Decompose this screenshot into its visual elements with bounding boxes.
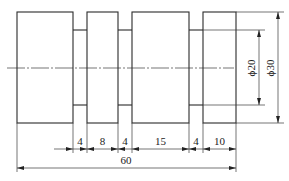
phi20-label: ϕ20 bbox=[245, 59, 257, 76]
arrow-icon bbox=[111, 147, 118, 151]
shaft-section-4 bbox=[203, 12, 236, 123]
arrow-icon bbox=[189, 147, 196, 151]
arrow-icon bbox=[132, 147, 139, 151]
dim-label-4: 15 bbox=[155, 135, 167, 147]
arrow-icon bbox=[17, 166, 24, 170]
arrow-icon bbox=[229, 166, 236, 170]
phi30-label: ϕ30 bbox=[264, 59, 276, 76]
arrow-icon bbox=[80, 147, 87, 151]
arrow-icon bbox=[118, 147, 125, 151]
dim-label-1: 4 bbox=[77, 135, 83, 147]
arrow-icon bbox=[276, 12, 280, 19]
arrow-icon bbox=[257, 98, 261, 105]
arrow-icon bbox=[203, 147, 210, 151]
dim-label-6: 10 bbox=[214, 135, 226, 147]
arrow-icon bbox=[276, 116, 280, 123]
arrow-icon bbox=[229, 147, 236, 151]
overall-length-label: 60 bbox=[121, 154, 133, 166]
dim-label-5: 4 bbox=[193, 135, 199, 147]
shaft-section-3 bbox=[132, 12, 189, 123]
shaft-section-1 bbox=[17, 12, 73, 123]
arrow-icon bbox=[87, 147, 94, 151]
arrow-icon bbox=[66, 147, 73, 151]
dim-label-3: 4 bbox=[122, 135, 128, 147]
arrow-icon bbox=[257, 30, 261, 37]
shaft-drawing: ϕ20 ϕ30 4 8 4 15 4 10 60 bbox=[0, 0, 289, 181]
shaft-section-2 bbox=[87, 12, 118, 123]
arrow-icon bbox=[182, 147, 189, 151]
dim-label-2: 8 bbox=[100, 135, 106, 147]
